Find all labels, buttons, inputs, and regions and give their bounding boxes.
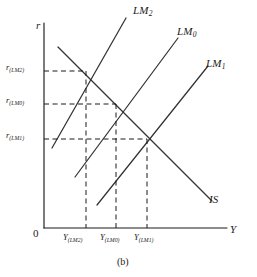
x-axis-label: Y	[230, 224, 236, 235]
y-axis-label: r	[36, 20, 40, 31]
figure-caption: (b)	[117, 256, 129, 267]
curves-group	[52, 18, 212, 205]
lm0-curve	[75, 38, 178, 177]
x-tick-label-y-lm1: Y(LM1)	[134, 233, 153, 242]
curve-label-lm2: LM2	[133, 5, 153, 16]
islm-figure-b: LM2 LM0 LM1 IS r Y 0 r(LM2) r(LM0) r(LM1…	[0, 0, 257, 277]
x-tick-label-y-lm2: Y(LM2)	[63, 233, 82, 242]
origin-label: 0	[33, 228, 39, 239]
curve-label-lm1: LM1	[206, 58, 226, 69]
lm1-curve	[97, 66, 208, 205]
curve-label-lm0: LM0	[177, 26, 197, 37]
y-tick-label-r-lm1: r(LM1)	[6, 131, 24, 140]
y-tick-label-r-lm2: r(LM2)	[6, 63, 24, 72]
y-tick-label-r-lm0: r(LM0)	[6, 96, 24, 105]
lm2-curve	[52, 18, 126, 148]
is-curve	[58, 47, 212, 201]
axes-group	[44, 23, 227, 228]
curve-label-is: IS	[209, 194, 219, 205]
x-tick-label-y-lm0: Y(LM0)	[100, 233, 119, 242]
